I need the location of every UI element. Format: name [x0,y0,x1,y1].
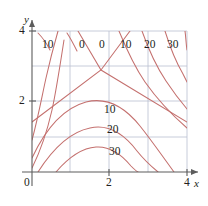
contour-label-top-0-right: 0 [99,39,105,51]
contour-label-top-10-right: 10 [120,39,132,51]
y-tick-label-4: 4 [19,25,25,37]
x-tick-label-4: 4 [184,177,190,189]
contour-dome-30 [56,147,138,172]
x-tick-label-2: 2 [106,177,112,189]
contour-plot-figure: y x 0 2 4 2 4 10 0 0 10 20 30 10 20 30 [0,0,208,206]
contour-label-top-0-left: 0 [79,39,85,51]
contour-dome-10 [32,101,174,172]
x-tick-label-0: 0 [24,177,30,189]
contour-label-interior-20: 20 [107,124,119,136]
contour-label-interior-30: 30 [109,146,121,158]
contour-top-stub-b [67,33,77,51]
contour-label-top-10-left: 10 [42,39,54,51]
x-axis-label: x [194,178,199,189]
contour-label-top-20: 20 [144,39,156,51]
contour-label-interior-10: 10 [104,104,116,116]
x-axis-arrow [191,169,198,175]
contour-label-top-30: 30 [167,39,179,51]
contour-dome-20 [38,127,158,172]
y-tick-label-2: 2 [19,95,25,107]
y-axis-arrow [29,20,35,27]
